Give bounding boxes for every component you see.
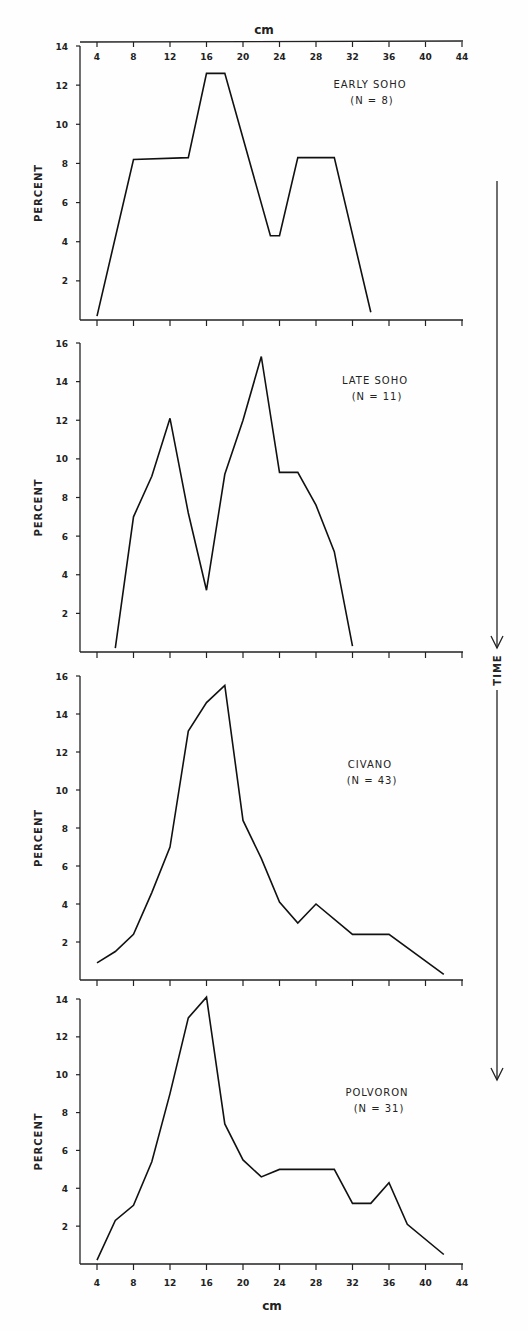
y-tick-label: 8	[62, 159, 68, 169]
y-tick-label: 10	[55, 120, 68, 130]
data-line-late-soho	[115, 357, 352, 649]
y-tick-label: 4	[62, 900, 68, 910]
y-axis-title: PERCENT	[33, 809, 44, 867]
y-tick-label: 4	[62, 570, 68, 580]
y-tick-label: 2	[62, 938, 68, 948]
y-tick-label: 12	[55, 81, 68, 91]
y-tick-label: 8	[62, 493, 68, 503]
panel-title: LATE SOHO	[342, 375, 408, 386]
bottom-x-tick-label: 24	[273, 1278, 286, 1288]
y-tick-label: 12	[55, 416, 68, 426]
y-tick-label: 10	[55, 786, 68, 796]
data-line-civano	[97, 686, 444, 975]
y-tick-label: 6	[62, 862, 68, 872]
stacked-line-charts: cm481216202428323640442468101214PERCENTE…	[0, 0, 528, 1331]
chart-panel-civano: 246810121416PERCENTCIVANO(N = 43)	[33, 672, 463, 987]
panel-sample-size: (N = 31)	[354, 1103, 405, 1114]
y-tick-label: 2	[62, 609, 68, 619]
top-x-tick-label: 28	[310, 52, 323, 62]
bottom-x-tick-label: 8	[130, 1278, 136, 1288]
time-arrow: TIME	[491, 181, 503, 1080]
y-tick-label: 14	[55, 42, 68, 52]
y-tick-label: 2	[62, 276, 68, 286]
bottom-x-tick-label: 4	[94, 1278, 100, 1288]
bottom-x-tick-label: 36	[383, 1278, 396, 1288]
bottom-x-axis-title: cm	[262, 1299, 282, 1313]
top-x-tick-label: 8	[130, 52, 136, 62]
y-tick-label: 14	[55, 710, 68, 720]
time-label: TIME	[492, 654, 503, 685]
top-x-tick-label: 20	[237, 52, 250, 62]
chart-panel-late-soho: 246810121416PERCENTLATE SOHO(N = 11)	[33, 339, 463, 659]
top-x-tick-label: 16	[200, 52, 213, 62]
top-x-axis-title: cm	[254, 23, 274, 37]
y-axis-title: PERCENT	[33, 164, 44, 222]
panel-sample-size: (N = 43)	[347, 775, 398, 786]
bottom-x-tick-label: 12	[164, 1278, 177, 1288]
y-tick-label: 6	[62, 532, 68, 542]
top-x-tick-label: 4	[94, 52, 100, 62]
y-axis-title: PERCENT	[33, 1112, 44, 1170]
y-tick-label: 10	[55, 1070, 68, 1080]
data-line-polvoron	[97, 997, 444, 1260]
panel-title: POLVORON	[345, 1087, 408, 1098]
y-tick-label: 6	[62, 198, 68, 208]
top-x-tick-label: 32	[346, 52, 359, 62]
panel-title: EARLY SOHO	[333, 79, 406, 90]
y-tick-label: 16	[55, 672, 68, 682]
y-tick-label: 6	[62, 1146, 68, 1156]
y-tick-label: 2	[62, 1222, 68, 1232]
bottom-x-tick-label: 40	[419, 1278, 432, 1288]
bottom-x-tick-label: 44	[456, 1278, 469, 1288]
top-x-tick-label: 12	[164, 52, 177, 62]
top-x-tick-label: 44	[456, 52, 469, 62]
y-tick-label: 12	[55, 748, 68, 758]
top-x-tick-label: 24	[273, 52, 286, 62]
panel-title: CIVANO	[348, 759, 392, 770]
y-tick-label: 8	[62, 824, 68, 834]
panel-sample-size: (N = 11)	[352, 391, 403, 402]
y-tick-label: 12	[55, 1032, 68, 1042]
chart-panel-early-soho: 2468101214PERCENTEARLY SOHO(N = 8)	[33, 42, 463, 327]
top-x-tick-label: 36	[383, 52, 396, 62]
y-tick-label: 16	[55, 339, 68, 349]
y-tick-label: 14	[55, 995, 68, 1005]
y-tick-label: 8	[62, 1108, 68, 1118]
chart-panel-polvoron: 2468101214PERCENTPOLVORON(N = 31)	[33, 995, 463, 1271]
y-tick-label: 14	[55, 377, 68, 387]
y-axis-title: PERCENT	[33, 478, 44, 536]
top-x-tick-label: 40	[419, 52, 432, 62]
data-line-early-soho	[97, 73, 371, 316]
bottom-x-tick-label: 16	[200, 1278, 213, 1288]
bottom-x-tick-label: 20	[237, 1278, 250, 1288]
bottom-x-tick-label: 32	[346, 1278, 359, 1288]
panel-sample-size: (N = 8)	[350, 95, 393, 106]
y-tick-label: 10	[55, 454, 68, 464]
y-tick-label: 4	[62, 1184, 68, 1194]
bottom-x-tick-label: 28	[310, 1278, 323, 1288]
y-tick-label: 4	[62, 237, 68, 247]
